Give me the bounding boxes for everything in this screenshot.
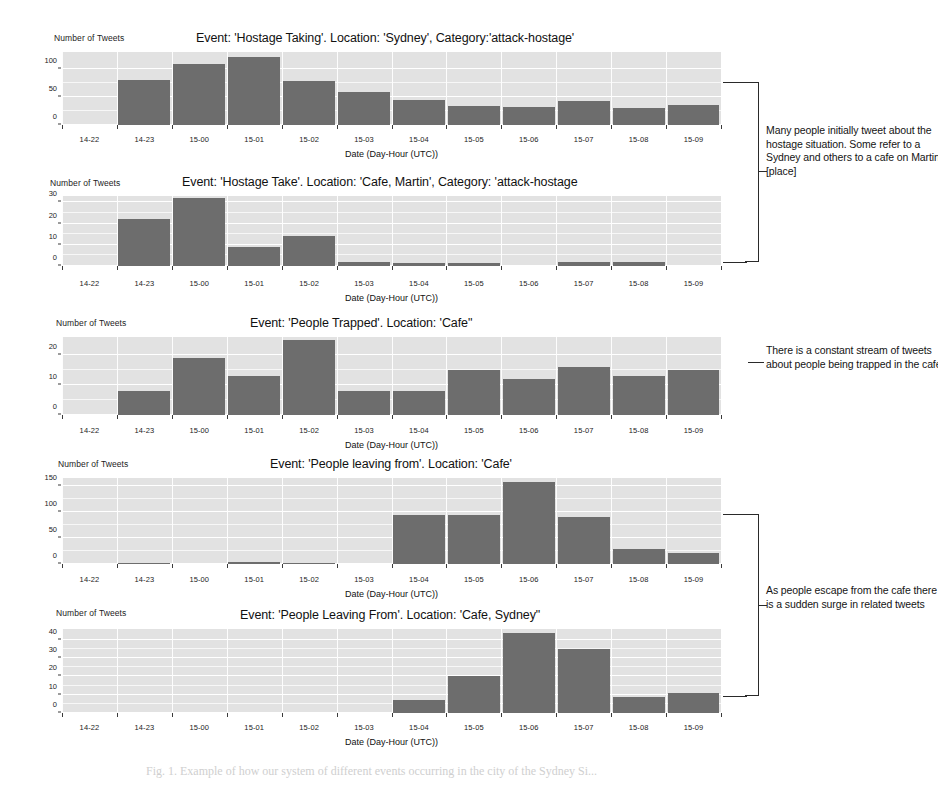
x-tick-label: 15-00 [189, 575, 209, 584]
bar [503, 107, 555, 125]
gridline-v [227, 629, 228, 713]
x-tick-label: 15-06 [519, 426, 539, 435]
y-tick-label: 100 [44, 55, 62, 64]
y-axis-label-1: Number of Tweets [54, 33, 124, 43]
plot-area-5: 010203040 [62, 629, 721, 713]
y-tick-mark [58, 484, 61, 485]
x-tick-mark [172, 125, 173, 129]
annotation-trapped-text: There is a constant stream of tweets abo… [766, 344, 938, 371]
y-tick-mark [58, 414, 61, 415]
x-tick-label: 14-22 [80, 426, 100, 435]
x-tick-label: 15-07 [574, 723, 594, 732]
x-tick-mark [556, 125, 557, 129]
x-tick-mark [117, 713, 118, 717]
bar [448, 515, 500, 564]
x-tick-label: 14-23 [135, 135, 155, 144]
x-tick-mark [666, 564, 667, 568]
y-tick-label: 10 [49, 372, 62, 381]
bar [173, 64, 225, 125]
bar [558, 101, 610, 125]
bar [393, 700, 445, 713]
y-tick-label: 0 [53, 551, 62, 560]
x-tick-label: 15-09 [684, 426, 704, 435]
bar [393, 263, 445, 266]
x-tick-label: 15-01 [244, 135, 264, 144]
x-tick-mark [501, 266, 502, 270]
bar [118, 80, 170, 125]
plot-area-3: 01020 [62, 337, 721, 415]
x-tick-mark [501, 564, 502, 568]
x-tick-label: 15-04 [409, 723, 429, 732]
bar [338, 262, 390, 266]
x-tick-label: 15-08 [629, 575, 649, 584]
bracket-escape [745, 514, 759, 696]
bar [283, 563, 335, 565]
gridline-v [172, 478, 173, 564]
y-tick-mark [58, 675, 61, 676]
x-tick-label: 14-22 [80, 279, 100, 288]
x-tick-label: 14-22 [80, 135, 100, 144]
x-tick-label: 15-00 [189, 279, 209, 288]
x-tick-mark [392, 125, 393, 129]
chart-title-3: Event: 'People Trapped'. Location: 'Cafe… [250, 316, 472, 330]
x-tick-mark [282, 125, 283, 129]
gridline-v [282, 478, 283, 564]
bar [173, 358, 225, 415]
x-tick-mark [611, 564, 612, 568]
y-tick-mark [58, 693, 61, 694]
gridline-v [556, 196, 557, 266]
bar [668, 553, 720, 564]
bar [338, 92, 390, 125]
x-tick-mark [227, 125, 228, 129]
x-tick-label: 15-07 [574, 279, 594, 288]
x-tick-label: 15-02 [299, 723, 319, 732]
plot-area-4: 050100150 [62, 478, 721, 564]
x-tick-mark [282, 713, 283, 717]
gridline-v [62, 52, 63, 125]
x-tick-mark [446, 564, 447, 568]
x-tick-mark [556, 713, 557, 717]
y-tick-mark [58, 222, 61, 223]
y-tick-label: 30 [49, 645, 62, 654]
y-tick-mark [58, 354, 61, 355]
x-tick-label: 15-01 [244, 426, 264, 435]
gridline-v [62, 337, 63, 415]
x-tick-label: 15-05 [464, 723, 484, 732]
x-tick-label: 15-09 [684, 279, 704, 288]
bar [668, 693, 720, 713]
y-tick-mark [58, 265, 61, 266]
x-tick-label: 15-04 [409, 575, 429, 584]
y-tick-mark [58, 67, 61, 68]
x-tick-label: 15-04 [409, 135, 429, 144]
x-tick-mark [446, 713, 447, 717]
y-tick-mark [58, 510, 61, 511]
y-tick-label: 20 [49, 342, 62, 351]
figure-caption: Fig. 1. Example of how our system of dif… [146, 764, 597, 779]
plot-canvas-1 [62, 52, 721, 125]
x-tick-mark [501, 125, 502, 129]
x-tick-mark [172, 415, 173, 419]
gridline-v [117, 629, 118, 713]
x-tick-mark [337, 564, 338, 568]
x-tick-label: 15-03 [354, 135, 374, 144]
x-tick-label: 15-00 [189, 135, 209, 144]
x-tick-mark [556, 564, 557, 568]
annotation-escape-text: As people escape from the cafe there is … [766, 584, 938, 611]
y-axis-label-5: Number of Tweets [56, 608, 126, 618]
x-tick-mark [62, 564, 63, 568]
plot-canvas-4 [62, 478, 721, 564]
x-tick-mark [446, 125, 447, 129]
gridline-v [337, 478, 338, 564]
y-tick-mark [58, 201, 61, 202]
y-tick-mark [58, 384, 61, 385]
x-tick-label: 15-00 [189, 426, 209, 435]
y-tick-mark [58, 563, 61, 564]
gridline-v [337, 196, 338, 266]
x-tick-mark [172, 266, 173, 270]
y-tick-label: 0 [53, 700, 62, 709]
bar [503, 482, 555, 564]
x-tick-label: 14-22 [80, 723, 100, 732]
y-tick-label: 0 [53, 402, 62, 411]
x-tick-mark [721, 713, 722, 717]
leader-chart3 [748, 362, 764, 363]
